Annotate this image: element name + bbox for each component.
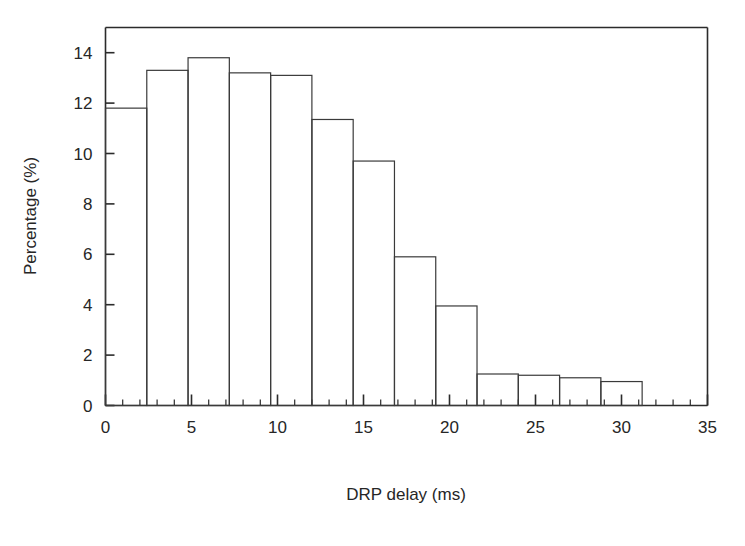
histogram-bar: [147, 70, 188, 405]
x-tick-label-20: 20: [440, 418, 459, 437]
x-tick-label-10: 10: [268, 418, 287, 437]
histogram-bar: [312, 119, 353, 405]
histogram-bar: [518, 375, 559, 405]
histogram-bar: [560, 378, 601, 406]
x-tick-label-30: 30: [612, 418, 631, 437]
y-axis: 02468101214: [74, 44, 115, 416]
y-tick-label-10: 10: [74, 145, 93, 164]
x-tick-label-35: 35: [698, 418, 717, 437]
drp-delay-histogram-plot: 02468101214 05101520253035 DRP delay (ms…: [0, 0, 745, 546]
x-tick-label-5: 5: [187, 418, 196, 437]
y-axis-title: Percentage (%): [21, 157, 40, 275]
x-tick-label-15: 15: [354, 418, 373, 437]
axes-frame: [106, 28, 708, 406]
y-tick-label-12: 12: [74, 94, 93, 113]
y-tick-label-4: 4: [83, 296, 92, 315]
histogram-bar: [188, 58, 229, 406]
histogram-figure: 02468101214 05101520253035 DRP delay (ms…: [0, 0, 745, 546]
x-axis: 05101520253035: [101, 395, 717, 437]
histogram-bars: [106, 58, 643, 406]
y-tick-label-0: 0: [83, 397, 92, 416]
y-tick-label-2: 2: [83, 346, 92, 365]
histogram-bar: [394, 257, 435, 406]
y-tick-label-8: 8: [83, 195, 92, 214]
x-tick-label-25: 25: [526, 418, 545, 437]
y-tick-label-14: 14: [74, 44, 93, 63]
y-tick-label-6: 6: [83, 245, 92, 264]
histogram-bar: [477, 374, 518, 406]
x-tick-label-0: 0: [101, 418, 110, 437]
histogram-bar: [271, 75, 312, 405]
x-axis-title: DRP delay (ms): [346, 485, 466, 504]
histogram-bar: [353, 161, 394, 405]
histogram-bar: [436, 306, 477, 406]
histogram-bar: [229, 73, 270, 406]
